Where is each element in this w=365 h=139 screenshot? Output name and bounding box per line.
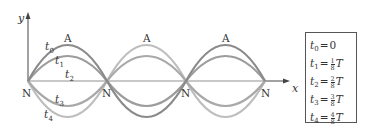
period-symbol: T (336, 75, 343, 87)
y-axis-arrow-icon (26, 12, 31, 19)
legend-row-t2: t2=28T (310, 72, 356, 90)
equals-sign: = (320, 111, 329, 123)
legend-sub: 2 (314, 81, 318, 89)
fraction: 18 (331, 58, 335, 71)
antinode-label: A (63, 32, 72, 44)
svg-text:4: 4 (49, 115, 54, 123)
node-label: N (22, 87, 31, 99)
fraction: 28 (331, 76, 335, 89)
fraction: 48 (331, 112, 335, 125)
equals-sign: = (320, 39, 329, 51)
period-symbol: T (336, 93, 343, 105)
legend-sub: 0 (314, 45, 318, 53)
curve-label-t3: t 3 (55, 93, 64, 108)
node-label: N (102, 87, 111, 99)
legend-row-t3: t3=38T (310, 90, 356, 108)
node-label: N (181, 87, 190, 99)
svg-text:0: 0 (50, 47, 54, 55)
fraction-denominator: 8 (331, 83, 335, 89)
legend-row-t1: t1=18T (310, 54, 356, 72)
period-symbol: T (336, 57, 343, 69)
legend-sub: 1 (314, 63, 318, 71)
equals-sign: = (320, 57, 329, 69)
legend-row-t0: t0=0 (310, 36, 356, 54)
time-legend: t0=0 t1=18T t2=28T t3=38T t4=48T (305, 32, 357, 123)
antinode-label: A (221, 32, 230, 44)
x-axis-arrow-icon (283, 79, 290, 84)
legend-value: 0 (330, 39, 337, 51)
curve-label-t0: t 0 (45, 40, 54, 55)
period-symbol: T (336, 111, 343, 123)
svg-text:1: 1 (60, 61, 64, 69)
x-axis-label: x (292, 82, 299, 95)
fraction-denominator: 8 (331, 101, 335, 107)
legend-sub: 3 (314, 99, 318, 107)
equals-sign: = (320, 75, 329, 87)
antinode-label: A (142, 32, 151, 44)
fraction-denominator: 8 (331, 119, 335, 125)
svg-text:2: 2 (70, 75, 74, 83)
fraction: 38 (331, 94, 335, 107)
legend-sub: 4 (314, 117, 318, 125)
y-axis-label: y (17, 12, 25, 25)
legend-row-t4: t4=48T (310, 108, 356, 126)
node-label: N (261, 87, 270, 99)
fraction-denominator: 8 (331, 65, 335, 71)
equals-sign: = (320, 93, 329, 105)
svg-text:3: 3 (60, 100, 64, 108)
